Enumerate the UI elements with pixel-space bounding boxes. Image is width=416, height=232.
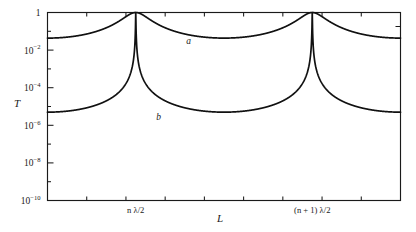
y-axis-ticks	[48, 13, 54, 201]
y-tick-label: 10−6	[24, 119, 41, 131]
y-tick-label: 10−2	[24, 43, 41, 55]
x-axis-title: L	[216, 212, 223, 224]
x-axis-tick-labels: n λ/2(n + 1) λ/2	[127, 205, 330, 215]
y-axis-tick-labels: 110−210−410−610−810−10	[21, 8, 42, 206]
plot-frame	[48, 13, 401, 201]
curve-group	[48, 13, 401, 113]
curve-annotation-b: b	[156, 112, 161, 122]
curve-annotation-a: a	[186, 36, 191, 46]
x-axis-ticks	[87, 13, 401, 201]
transmission-chart: 110−210−410−610−810−10 n λ/2(n + 1) λ/2 …	[0, 0, 416, 232]
figure-container: 110−210−410−610−810−10 n λ/2(n + 1) λ/2 …	[0, 0, 416, 232]
x-tick-label: (n + 1) λ/2	[294, 205, 330, 215]
y-tick-label: 10−8	[24, 156, 41, 168]
curve-a	[48, 13, 401, 39]
curve-b	[48, 13, 401, 113]
x-tick-label: n λ/2	[127, 205, 144, 215]
y-tick-label: 1	[36, 8, 41, 18]
y-tick-label: 10−4	[24, 81, 41, 93]
y-axis-title: T	[14, 97, 21, 109]
y-tick-label: 10−10	[21, 194, 42, 206]
